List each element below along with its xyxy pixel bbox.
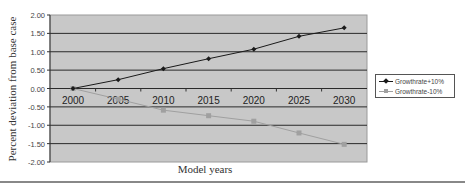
legend-label: Growthrate-10% — [395, 88, 442, 95]
x-tick-label: 2010 — [152, 95, 175, 106]
y-axis-label-text: Percent deviation from base case — [6, 16, 18, 161]
x-tick-label: 2020 — [243, 95, 266, 106]
data-point-square-icon — [342, 142, 347, 147]
data-point-square-icon — [116, 97, 121, 102]
x-tick-label: 2030 — [333, 95, 356, 106]
y-tick-label: -1.00 — [28, 121, 45, 130]
data-point-square-icon — [206, 113, 211, 118]
y-tick-label: 0.00 — [30, 85, 45, 94]
y-tick-label: -0.50 — [28, 103, 45, 112]
y-tick-label: 0.50 — [30, 66, 45, 75]
x-tick-label: 2015 — [197, 95, 220, 106]
y-tick-label: 1.50 — [30, 29, 45, 38]
legend-item-growthrate-minus: Growthrate-10% — [379, 86, 442, 96]
bottom-rule — [0, 181, 465, 183]
y-tick-label: -2.00 — [28, 158, 45, 167]
legend-swatch-gray-square-icon — [379, 87, 393, 95]
y-tick-label: -1.50 — [28, 140, 45, 149]
x-axis-label: Model years — [160, 163, 250, 175]
x-tick-label: 2000 — [62, 95, 85, 106]
legend-label: Growthrate+10% — [395, 78, 444, 85]
data-point-square-icon — [161, 108, 166, 113]
x-tick-label: 2025 — [288, 95, 311, 106]
legend-item-growthrate-plus: Growthrate+10% — [379, 76, 444, 86]
data-point-square-icon — [297, 130, 302, 135]
y-tick-label: 1.00 — [30, 48, 45, 57]
data-point-square-icon — [251, 119, 256, 124]
y-tick-label: 2.00 — [30, 11, 45, 20]
y-axis-label: Percent deviation from base case — [2, 15, 22, 162]
legend-swatch-black-diamond-icon — [379, 77, 393, 85]
legend: Growthrate+10% Growthrate-10% — [375, 74, 455, 98]
